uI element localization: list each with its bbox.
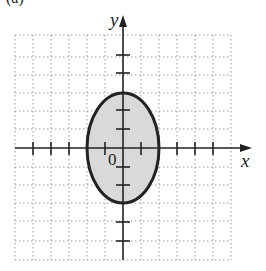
y-axis-arrow-icon [119, 15, 127, 27]
x-axis-label: x [240, 150, 250, 171]
graph-canvas: (a) y x 0 [0, 0, 266, 271]
panel-label: (a) [6, 0, 24, 7]
y-axis-label: y [108, 9, 119, 30]
origin-label: 0 [108, 150, 117, 169]
